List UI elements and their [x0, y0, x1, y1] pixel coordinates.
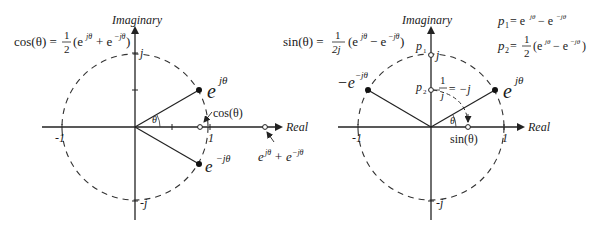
svg-text:sin(θ) =: sin(θ) =	[283, 34, 324, 49]
svg-text:p: p	[415, 80, 422, 94]
tick-neg-one: -1	[55, 131, 65, 145]
svg-text:−jθ: −jθ	[292, 148, 304, 157]
theta-label: θ	[152, 114, 157, 125]
svg-text:−jθ: −jθ	[355, 70, 369, 80]
tick-j-right: j	[434, 48, 440, 62]
svg-text:(e: (e	[533, 39, 542, 53]
svg-text:jθ: jθ	[360, 32, 367, 41]
svg-text:j: j	[439, 89, 444, 101]
imaginary-axis-label-right: Imaginary	[401, 13, 453, 27]
right-diagram: sin(θ) = 1 2j (e jθ − e −jθ ) p 1 = e jθ…	[283, 13, 586, 220]
svg-text:1: 1	[524, 33, 530, 45]
cos-point	[198, 125, 203, 130]
ejtheta-label: e jθ	[207, 74, 228, 102]
emjtheta-label: e −jθ	[205, 153, 231, 176]
svg-text:1: 1	[423, 47, 427, 55]
svg-text:p: p	[415, 39, 422, 53]
sin-point	[466, 125, 471, 130]
svg-text:jθ: jθ	[85, 32, 92, 41]
svg-text:− e: − e	[370, 34, 387, 49]
p1-label: p 1	[415, 39, 427, 55]
svg-text:p: p	[497, 13, 505, 28]
svg-text:−jθ: −jθ	[570, 38, 581, 46]
svg-text:2: 2	[524, 47, 530, 59]
tick-neg-j: -j	[140, 196, 148, 210]
neg-emjtheta-point	[365, 87, 371, 93]
svg-text:jθ: jθ	[513, 74, 524, 86]
svg-text:−e: −e	[337, 74, 355, 91]
ejtheta-label-right: e jθ	[503, 74, 524, 102]
p1-point	[429, 53, 434, 58]
svg-text:−jθ: −jθ	[216, 153, 231, 164]
svg-text:cos(θ) =: cos(θ) =	[14, 34, 57, 49]
p1-definition: p 1 = e jθ − e −jθ	[497, 13, 567, 30]
svg-text:=: =	[510, 39, 517, 53]
sin-label: sin(θ)	[450, 132, 478, 146]
svg-text:jθ: jθ	[217, 74, 228, 86]
sum-point	[263, 125, 268, 130]
svg-text:1: 1	[505, 21, 509, 30]
svg-text:2j: 2j	[332, 43, 341, 55]
p2-definition: p 2 = 1 2 (e jθ − e −jθ )	[497, 33, 586, 59]
svg-text:(e: (e	[348, 34, 358, 49]
tick-neg-one-right: -1	[352, 131, 362, 145]
ejtheta-point-right	[492, 87, 498, 93]
emjtheta-point	[196, 161, 202, 167]
sum-label: e jθ + e −jθ	[258, 148, 304, 164]
svg-text:e: e	[205, 157, 213, 176]
left-diagram: cos(θ) = 1 2 (e jθ + e −jθ ) Imaginary j…	[14, 13, 309, 220]
svg-text:): )	[582, 39, 586, 53]
ejtheta-point	[196, 87, 202, 93]
svg-text:= e: = e	[510, 14, 525, 28]
svg-text:− e: − e	[538, 14, 553, 28]
svg-text:−jθ: −jθ	[556, 13, 567, 21]
svg-text:2: 2	[423, 88, 427, 96]
imaginary-axis-label: Imaginary	[111, 13, 163, 27]
tick-one-right: 1	[502, 131, 508, 145]
tick-one: 1	[208, 131, 214, 145]
sin-formula: sin(θ) = 1 2j (e jθ − e −jθ )	[283, 29, 404, 55]
tick-neg-j-right: -j	[436, 196, 444, 210]
svg-text:1: 1	[335, 29, 341, 41]
svg-text:jθ: jθ	[264, 148, 271, 157]
svg-text:p: p	[497, 38, 505, 53]
real-axis-label: Real	[285, 120, 309, 134]
real-axis-label-right: Real	[527, 120, 551, 134]
svg-text:): )	[126, 34, 130, 49]
svg-text:+ e: + e	[274, 149, 292, 164]
svg-text:2: 2	[64, 43, 70, 55]
svg-text:−jθ: −jθ	[388, 32, 400, 41]
svg-text:− e: − e	[553, 39, 568, 53]
cos-formula: cos(θ) = 1 2 (e jθ + e −jθ )	[14, 29, 130, 55]
tick-j: j	[138, 46, 144, 60]
p2-label: p 2	[415, 80, 427, 96]
svg-text:2: 2	[505, 46, 509, 55]
svg-text:jθ: jθ	[529, 13, 536, 21]
svg-text:1: 1	[440, 74, 446, 86]
svg-text:e: e	[503, 80, 512, 102]
svg-text:1: 1	[64, 29, 70, 41]
svg-text:+ e: + e	[96, 34, 113, 49]
svg-text:e: e	[207, 80, 216, 102]
theta-label-right: θ	[450, 115, 455, 126]
svg-text:−jθ: −jθ	[114, 32, 126, 41]
svg-text:): )	[400, 34, 404, 49]
cos-label: cos(θ)	[213, 106, 243, 120]
svg-text:e: e	[258, 149, 264, 164]
svg-text:jθ: jθ	[544, 38, 551, 46]
inverse-j-label: 1 j = −j	[434, 74, 471, 101]
p2-point	[429, 88, 434, 93]
svg-text:(e: (e	[73, 34, 83, 49]
neg-emjtheta-label: −e −jθ	[337, 70, 369, 91]
svg-text:= −j: = −j	[448, 82, 471, 96]
